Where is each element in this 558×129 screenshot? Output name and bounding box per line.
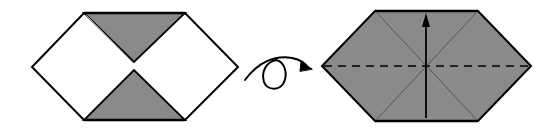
origami-diagram: [0, 0, 558, 129]
step-1-model: [32, 13, 238, 120]
diagram-canvas: [0, 0, 558, 129]
step-2-model: [322, 11, 531, 121]
turn-over-icon: [245, 57, 312, 88]
